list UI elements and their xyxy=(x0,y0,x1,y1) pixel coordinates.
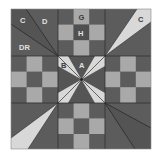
label-b: B xyxy=(61,61,67,70)
patch-light xyxy=(58,25,74,41)
label-c-top-right: C xyxy=(138,15,144,24)
patch-light xyxy=(136,72,151,88)
patch-light xyxy=(74,103,90,119)
patch-light xyxy=(105,72,121,88)
patch-light xyxy=(89,118,105,134)
patch-light xyxy=(74,134,90,149)
patch-light xyxy=(74,40,90,56)
center-point xyxy=(80,78,82,80)
label-g: G xyxy=(79,13,85,22)
patch-light xyxy=(11,72,27,88)
quilt-block-diagram: C D DR C G H xyxy=(0,0,162,157)
label-d: D xyxy=(42,17,48,26)
patch-light xyxy=(120,56,136,72)
unit-center-star: B A xyxy=(58,56,105,103)
patch-light xyxy=(27,56,43,72)
label-a: A xyxy=(79,61,85,70)
label-c-top-left: C xyxy=(20,16,26,25)
patch-light xyxy=(58,118,74,134)
patch-light xyxy=(89,25,105,41)
patch-light xyxy=(42,72,58,88)
patch-light xyxy=(27,87,43,103)
label-h: H xyxy=(78,29,83,38)
patch-light xyxy=(120,87,136,103)
label-dr: DR xyxy=(19,43,30,52)
